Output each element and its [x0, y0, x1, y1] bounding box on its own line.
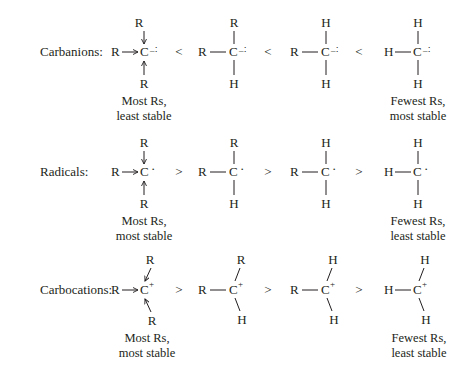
atom-center: C: [321, 44, 330, 59]
right-note-line-2: most stable: [390, 109, 447, 123]
charge-icon: –∶: [238, 45, 246, 55]
atom-center: C: [140, 164, 149, 179]
atom-left: H: [384, 44, 393, 59]
left-note-line-2: least stable: [116, 109, 172, 123]
structure-methyl: H H C · H: [384, 135, 428, 211]
atom-center: C: [229, 282, 238, 297]
comparator: <: [355, 44, 362, 59]
bond-bottom: [327, 298, 332, 311]
atom-center: C: [140, 282, 149, 297]
atom-left: R: [198, 282, 207, 297]
charge-icon: –∶: [149, 45, 157, 55]
atom-left: H: [384, 282, 393, 297]
structure-tertiary: R R C –∶ R: [111, 15, 157, 91]
charge-icon: –∶: [330, 45, 338, 55]
atom-bottom: H: [421, 312, 430, 327]
right-note-line-1: Fewest Rs,: [391, 214, 446, 228]
atom-center: C: [413, 282, 422, 297]
bond-bottom: [419, 298, 424, 311]
atom-left: R: [290, 164, 299, 179]
diagram-svg: Carbanions: R R C –∶ R < R R C –∶ H < H: [0, 0, 461, 375]
bond-bottom: [235, 298, 240, 311]
comparator: >: [355, 282, 362, 297]
plus-charge-icon: +: [330, 279, 335, 289]
atom-top: R: [237, 252, 246, 267]
atom-center: C: [413, 164, 422, 179]
atom-top: R: [140, 135, 149, 150]
atom-left: R: [111, 282, 120, 297]
structure-tertiary: R R C + R: [111, 252, 157, 328]
left-note-line-2: most stable: [119, 346, 176, 360]
row-label: Carbanions:: [40, 44, 103, 59]
right-note-line-1: Fewest Rs,: [391, 94, 446, 108]
atom-top: H: [420, 252, 429, 267]
arrow-bond-bottom: [145, 299, 151, 312]
atom-bottom: H: [321, 76, 330, 91]
atom-left: R: [111, 164, 120, 179]
atom-left: R: [198, 44, 207, 59]
left-note-line-1: Most Rs,: [121, 214, 166, 228]
row-label: Radicals:: [40, 164, 88, 179]
atom-bottom: H: [413, 196, 422, 211]
atom-bottom: R: [140, 196, 149, 211]
plus-charge-icon: +: [238, 279, 243, 289]
atom-bottom: H: [329, 312, 338, 327]
atom-center: C: [321, 164, 330, 179]
comparator: >: [175, 164, 182, 179]
atom-top: H: [413, 135, 422, 150]
atom-bottom: R: [148, 313, 157, 328]
comparator: >: [264, 164, 271, 179]
row-label: Carbocations:: [40, 282, 112, 297]
structure-primary: H R C · H: [290, 135, 336, 211]
atom-top: H: [328, 252, 337, 267]
atom-top: R: [230, 15, 239, 30]
atom-bottom: H: [321, 196, 330, 211]
atom-center: C: [140, 44, 149, 59]
structure-secondary: R R C · H: [198, 135, 244, 211]
atom-bottom: H: [413, 76, 422, 91]
row-carbocations: Carbocations: R R C + R > R R C + H > H …: [40, 252, 447, 360]
radical-dot-icon: ·: [151, 161, 155, 176]
comparator: >: [175, 282, 182, 297]
plus-charge-icon: +: [422, 279, 427, 289]
atom-left: R: [290, 44, 299, 59]
atom-top: H: [413, 15, 422, 30]
left-note-line-1: Most Rs,: [124, 331, 169, 345]
stability-diagram: Carbanions: R R C –∶ R < R R C –∶ H < H: [0, 0, 461, 375]
left-note-line-1: Most Rs,: [121, 94, 166, 108]
right-note-line-2: least stable: [390, 229, 446, 243]
atom-top: R: [230, 135, 239, 150]
atom-bottom: H: [229, 76, 238, 91]
plus-charge-icon: +: [149, 279, 154, 289]
atom-top: H: [321, 15, 330, 30]
structure-secondary: R R C –∶ H: [198, 15, 246, 91]
left-note-line-2: most stable: [116, 229, 173, 243]
comparator: <: [264, 44, 271, 59]
structure-tertiary: R R C · R: [111, 135, 155, 211]
radical-dot-icon: ·: [240, 161, 244, 176]
radical-dot-icon: ·: [424, 161, 428, 176]
atom-top: H: [321, 135, 330, 150]
atom-center: C: [321, 282, 330, 297]
atom-top: R: [146, 252, 155, 267]
atom-left: H: [384, 164, 393, 179]
row-radicals: Radicals: R R C · R > R R C · H > H R: [40, 135, 446, 243]
atom-center: C: [229, 164, 238, 179]
atom-center: C: [413, 44, 422, 59]
row-carbanions: Carbanions: R R C –∶ R < R R C –∶ H < H: [40, 15, 447, 123]
charge-icon: –∶: [422, 45, 430, 55]
atom-bottom: H: [229, 196, 238, 211]
right-note-line-2: least stable: [391, 346, 447, 360]
atom-left: R: [111, 44, 120, 59]
structure-methyl: H H C –∶ H: [384, 15, 430, 91]
atom-center: C: [229, 44, 238, 59]
structure-secondary: R R C + H: [198, 252, 247, 327]
atom-top: R: [135, 15, 144, 30]
comparator: >: [264, 282, 271, 297]
atom-left: R: [290, 282, 299, 297]
comparator: <: [175, 44, 182, 59]
atom-left: R: [198, 164, 207, 179]
structure-primary: H R C + H: [290, 252, 339, 327]
structure-primary: H R C –∶ H: [290, 15, 338, 91]
right-note-line-1: Fewest Rs,: [392, 331, 447, 345]
